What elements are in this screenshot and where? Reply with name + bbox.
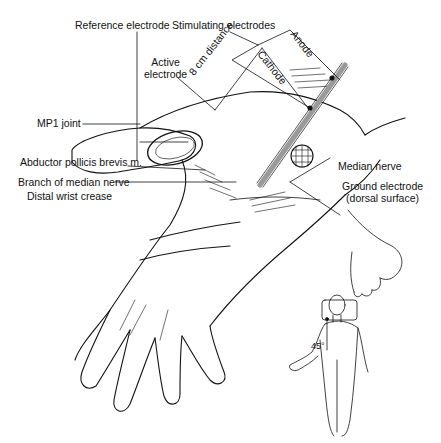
hand-illustration — [0, 0, 441, 443]
nerve-conduction-diagram: Reference electrode Stimulating electrod… — [0, 0, 441, 443]
label-mp1-joint: MP1 joint — [37, 117, 81, 129]
body-figure — [289, 295, 368, 436]
label-ground-electrode: Ground electrode (dorsal surface) — [342, 180, 423, 204]
hatching — [120, 68, 332, 340]
small-hand — [348, 210, 402, 297]
label-branch-median-nerve: Branch of median nerve — [18, 176, 129, 188]
active-electrode-disc — [144, 125, 206, 170]
label-angle: 45° — [311, 340, 325, 352]
hand-outline — [72, 92, 405, 412]
label-reference-electrode: Reference electrode — [75, 19, 170, 31]
label-median-nerve: Median nerve — [338, 160, 402, 172]
ground-electrode-disc — [291, 145, 313, 167]
label-distal-wrist-crease: Distal wrist crease — [27, 190, 112, 202]
label-abductor-pollicis-brevis: Abductor pollicis brevis m. — [20, 156, 142, 168]
label-active-electrode: Active electrode — [144, 56, 187, 80]
